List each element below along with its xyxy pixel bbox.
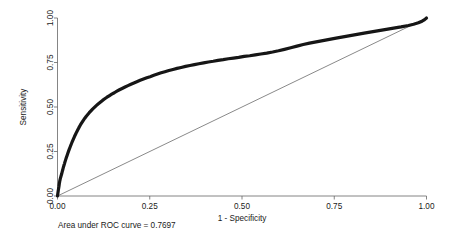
auc-annotation: Area under ROC curve = 0.7697	[58, 221, 176, 230]
roc-chart-canvas: 0.000.250.500.751.000.000.250.500.751.00…	[0, 0, 454, 242]
roc-curve-figure: 0.000.250.500.751.000.000.250.500.751.00…	[0, 0, 454, 242]
x-tick-label: 0.75	[326, 202, 342, 211]
x-tick-label: 0.00	[50, 202, 66, 211]
y-tick-label: 0.25	[46, 143, 55, 159]
reference-diagonal-line	[58, 18, 427, 196]
y-tick-label: 1.00	[46, 10, 55, 26]
x-tick-label: 0.50	[234, 202, 250, 211]
y-axis-title: Sensitivity	[19, 88, 28, 126]
x-axis-title: 1 - Specificity	[218, 214, 268, 223]
y-tick-label: 0.75	[46, 54, 55, 70]
x-tick-label: 0.25	[142, 202, 158, 211]
y-tick-label: 0.50	[46, 99, 55, 115]
x-tick-label: 1.00	[419, 202, 435, 211]
